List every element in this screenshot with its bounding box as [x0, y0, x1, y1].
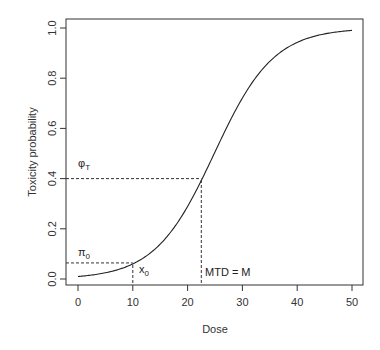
pi-0-label: π0	[78, 246, 91, 261]
x-tick-label: 20	[181, 296, 193, 308]
dose-toxicity-curve	[78, 30, 352, 276]
x-axis: 01020304050	[75, 285, 358, 308]
x-0-label: x0	[139, 263, 150, 278]
x-tick-label: 50	[346, 296, 358, 308]
mtd-label: MTD = M	[205, 266, 251, 278]
x-tick-label: 40	[291, 296, 303, 308]
y-axis: 0.00.20.40.60.81.0	[46, 20, 66, 286]
x-axis-title: Dose	[202, 323, 228, 335]
y-tick-label: 0.6	[46, 121, 58, 136]
y-tick-label: 0.8	[46, 71, 58, 86]
y-tick-label: 0.2	[46, 221, 58, 236]
annotation-lines	[66, 179, 201, 283]
y-tick-label: 0.4	[46, 171, 58, 186]
phi-t-label: φT	[78, 157, 90, 172]
x-tick-label: 30	[236, 296, 248, 308]
x-tick-label: 0	[75, 296, 81, 308]
y-tick-label: 0.0	[46, 271, 58, 286]
x-tick-label: 10	[127, 296, 139, 308]
y-axis-title: Toxicity probability	[26, 107, 38, 197]
dose-toxicity-chart: 0.00.20.40.60.81.0 01020304050 Toxicity …	[0, 0, 380, 350]
y-tick-label: 1.0	[46, 20, 58, 35]
